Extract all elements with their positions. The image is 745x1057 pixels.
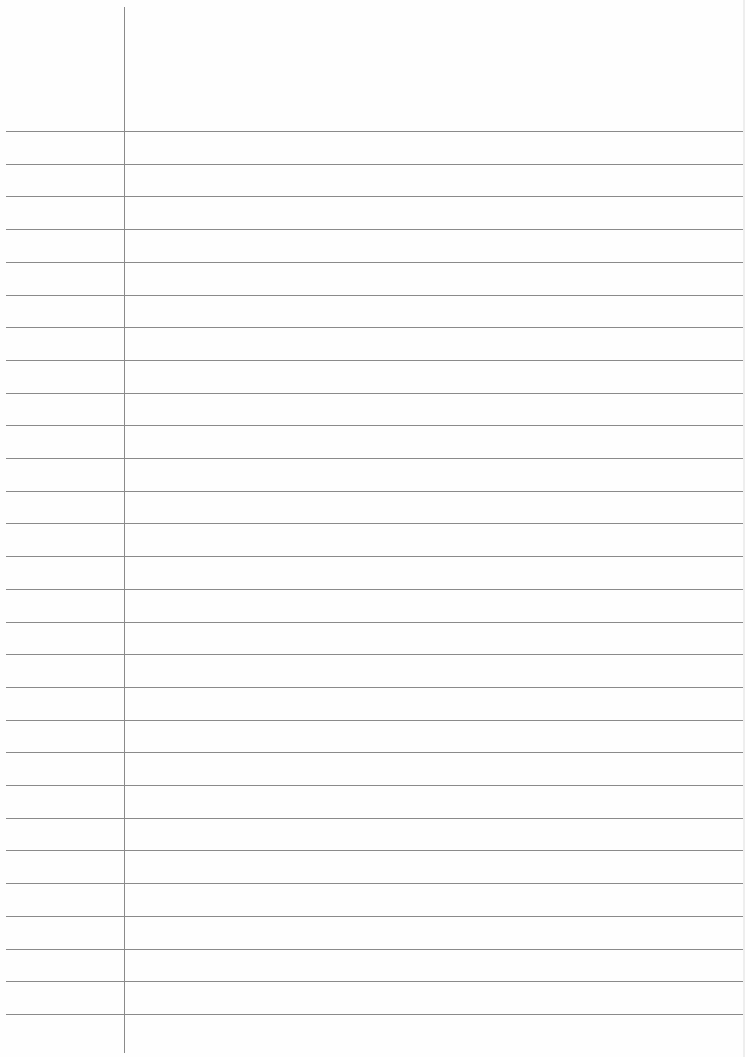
ruled-line xyxy=(6,883,743,884)
ruled-line xyxy=(6,360,743,361)
ruled-line xyxy=(6,654,743,655)
ruled-line xyxy=(6,556,743,557)
ruled-line xyxy=(6,131,743,132)
ruled-line xyxy=(6,393,743,394)
ruled-line xyxy=(6,818,743,819)
ruled-line xyxy=(6,916,743,917)
ruled-line xyxy=(6,687,743,688)
ruled-line xyxy=(6,752,743,753)
ruled-line xyxy=(6,850,743,851)
ruled-line xyxy=(6,164,743,165)
ruled-line xyxy=(6,327,743,328)
ruled-line xyxy=(6,523,743,524)
ruled-line xyxy=(6,785,743,786)
ruled-line xyxy=(6,425,743,426)
ruled-line xyxy=(6,1014,743,1015)
ruled-line xyxy=(6,295,743,296)
ruled-line xyxy=(6,589,743,590)
ruled-line xyxy=(6,229,743,230)
ruled-line xyxy=(6,981,743,982)
ruled-line xyxy=(6,491,743,492)
ruled-line xyxy=(6,458,743,459)
ruled-line xyxy=(6,720,743,721)
lined-paper-sheet xyxy=(0,0,745,1057)
ruled-line xyxy=(6,262,743,263)
ruled-line xyxy=(6,196,743,197)
ruled-line xyxy=(6,622,743,623)
ruled-line xyxy=(6,949,743,950)
